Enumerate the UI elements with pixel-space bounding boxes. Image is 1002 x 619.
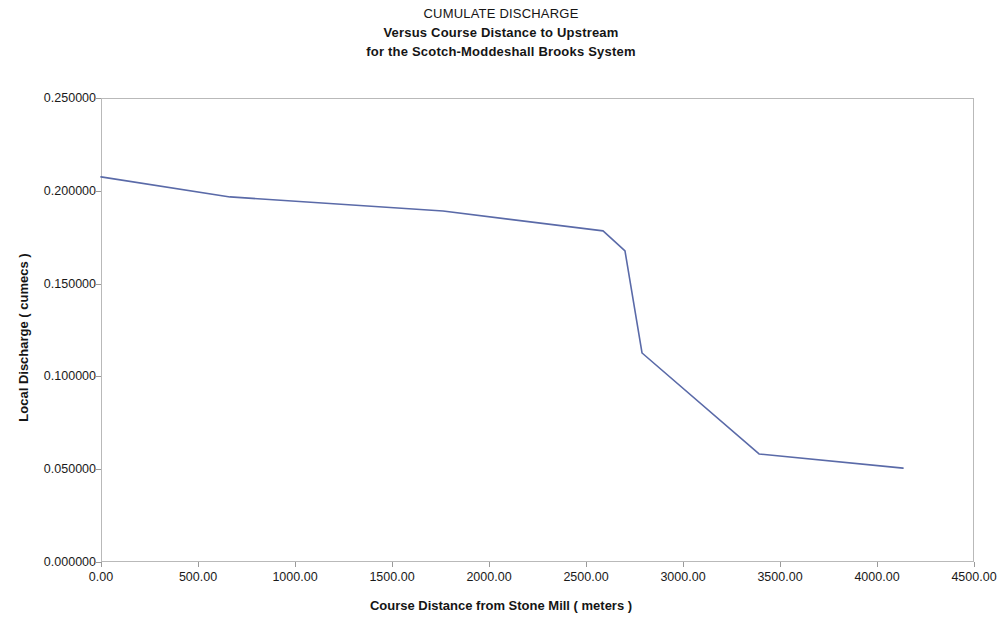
x-tick-mark: [780, 562, 781, 567]
x-tick-mark: [974, 562, 975, 567]
y-tick-label: 0.200000: [4, 184, 96, 198]
chart-plot-wrapper: 0.0000000.0500000.1000000.1500000.200000…: [0, 0, 1002, 619]
y-tick-label: 0.000000: [4, 555, 96, 569]
x-tick-label: 4500.00: [914, 570, 1002, 584]
discharge-line-series: [101, 177, 903, 468]
x-tick-mark: [683, 562, 684, 567]
x-tick-mark: [295, 562, 296, 567]
x-tick-mark: [586, 562, 587, 567]
y-axis-title: Local Discharge ( cumecs ): [16, 223, 31, 453]
y-tick-mark: [95, 469, 101, 470]
x-tick-mark: [392, 562, 393, 567]
y-tick-mark: [95, 376, 101, 377]
y-tick-mark: [95, 284, 101, 285]
data-line-svg: [101, 98, 974, 562]
y-tick-mark: [95, 98, 101, 99]
y-tick-mark: [95, 191, 101, 192]
x-tick-mark: [489, 562, 490, 567]
x-tick-mark: [877, 562, 878, 567]
y-axis-labels: 0.0000000.0500000.1000000.1500000.200000…: [0, 0, 96, 619]
x-tick-mark: [198, 562, 199, 567]
y-tick-label: 0.050000: [4, 462, 96, 476]
y-tick-label: 0.250000: [4, 91, 96, 105]
x-tick-mark: [101, 562, 102, 567]
x-axis-title: Course Distance from Stone Mill ( meters…: [0, 598, 1002, 613]
